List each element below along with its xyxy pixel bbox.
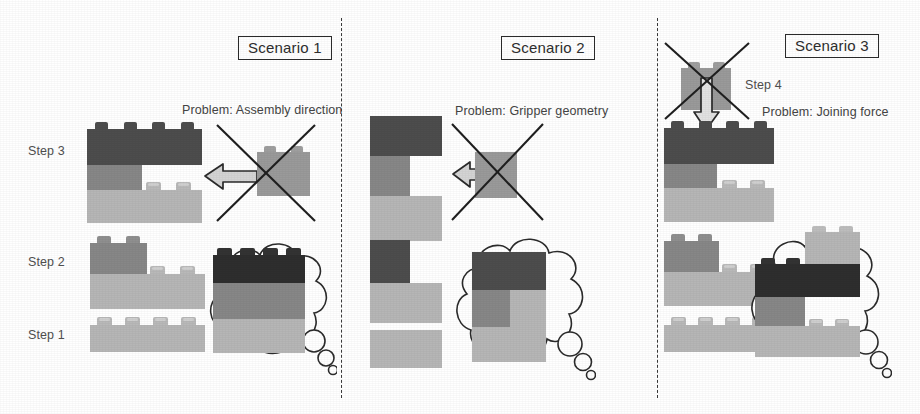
layer-body: [805, 232, 860, 264]
stud: [181, 122, 194, 129]
s1-step1-stud-1: [97, 317, 112, 325]
s3-upper-notch-stud-2: [750, 180, 765, 188]
stud: [97, 236, 111, 243]
s1-step3-notch-stud-2: [176, 182, 191, 190]
s2-base-light-body: [370, 196, 442, 241]
scenario-1-step-2-label: Step 2: [28, 255, 65, 269]
s3-mid-mid-body: [664, 241, 719, 272]
scenario-1-step-3-label: Step 3: [28, 144, 65, 158]
s1-target-assembly: [213, 255, 305, 353]
stud: [152, 122, 165, 129]
divider-2-3: [657, 18, 658, 398]
s1-step2-mid-body: [90, 243, 147, 274]
scenario-2-title: Scenario 2: [511, 39, 585, 56]
stud: [699, 121, 712, 128]
stud: [698, 234, 712, 241]
s2-target-dark-layer: [472, 252, 546, 290]
s2-top-dark-brick: [370, 116, 442, 156]
layer-body: [510, 290, 546, 327]
scenario-1-problem-label: Problem: Assembly direction: [182, 103, 342, 117]
scenario-3-title: Scenario 3: [795, 37, 869, 54]
s1-target-light-layer: [213, 319, 305, 353]
layer-body: [213, 319, 305, 353]
s1-step2-notch-stud-1: [150, 266, 165, 274]
s1-step1-stud-4: [181, 317, 196, 325]
s2-mid-brick: [370, 156, 410, 196]
scenario-2-title-box: Scenario 2: [501, 36, 595, 60]
s2-mid-body: [370, 156, 410, 196]
s1-step2-notch-stud-2: [180, 266, 195, 274]
stud: [263, 248, 278, 255]
stud: [240, 248, 255, 255]
divider-1-2: [341, 18, 342, 398]
s1-step3-notch-stud-1: [146, 182, 161, 190]
s2-target-upper-light-layer: [510, 290, 546, 327]
layer-body: [472, 290, 510, 327]
s2-target-assembly: [472, 252, 546, 362]
layer-body: [213, 255, 305, 283]
s1-step3-light-body: [87, 190, 202, 223]
s3-target-notch-stud-2: [835, 319, 849, 326]
stud: [726, 121, 739, 128]
s1-step2-light-brick: [90, 274, 205, 309]
s1-step1-stud-3: [153, 317, 168, 325]
s1-step3-dark-brick: [87, 129, 202, 165]
s3-upper-dark-brick: [664, 128, 774, 164]
s2-target-light-layer: [472, 327, 546, 362]
s3-bottom-stud-2: [698, 317, 713, 325]
s2-bottom-light-brick: [370, 330, 442, 368]
s1-step2-mid-studs: [90, 236, 147, 243]
s1-target-mid-layer: [213, 283, 305, 319]
s3-target-notch-stud-1: [809, 319, 823, 326]
s3-upper-dark-studs: [664, 121, 774, 128]
s3-mid-studs: [664, 234, 719, 241]
s1-step3-dark-body: [87, 129, 202, 165]
s2-lower-dark-brick: [370, 240, 410, 283]
s3-target-light-base: [755, 326, 860, 357]
s3-upper-light-body: [664, 188, 774, 222]
stud: [671, 121, 684, 128]
s2-lower-dark-body: [370, 240, 410, 283]
s1-step2-mid-brick: [90, 243, 147, 274]
s3-upper-notch-stud-1: [722, 180, 737, 188]
s3-bottom-stud-3: [725, 317, 740, 325]
s3-target-black-brick: [755, 264, 860, 297]
s1-step1-light-body: [90, 325, 205, 352]
s3-mid-notch-stud-1: [722, 264, 737, 272]
scenario-2-problem-label: Problem: Gripper geometry: [455, 104, 608, 118]
s1-rejection-cross-icon: [215, 123, 317, 223]
s3-bottom-stud-1: [671, 317, 686, 325]
s2-lower-light-body: [370, 283, 442, 323]
scenario-1-title: Scenario 1: [248, 39, 322, 56]
scenario-3-title-box: Scenario 3: [785, 34, 879, 58]
s1-step3-light-brick: [87, 190, 202, 223]
s3-rejection-cross-icon: [663, 41, 751, 121]
s1-target-black-layer: [213, 255, 305, 283]
s1-step1-light-brick: [90, 325, 205, 352]
scenario-1-step-1-label: Step 1: [28, 328, 65, 342]
s3-upper-dark-body: [664, 128, 774, 164]
scenario-3-problem-label: Problem: Joining force: [762, 105, 889, 119]
s1-step2-light-body: [90, 274, 205, 309]
assembly-scenarios-figure: Scenario 1 Problem: Assembly direction S…: [0, 0, 920, 414]
layer-body: [472, 252, 546, 290]
layer-body: [755, 326, 860, 357]
layer-body: [213, 283, 305, 319]
s3-upper-light-brick: [664, 188, 774, 222]
s3-mid-mid-brick: [664, 241, 719, 272]
s1-step1-stud-2: [125, 317, 140, 325]
s1-target-studs: [213, 248, 305, 255]
stud: [286, 248, 301, 255]
scenario-1-title-box: Scenario 1: [238, 36, 332, 60]
s3-target-upper-light: [805, 232, 860, 264]
stud: [126, 236, 140, 243]
s2-top-dark-body: [370, 116, 442, 156]
stud: [671, 234, 685, 241]
s2-rejection-cross-icon: [450, 122, 545, 222]
s2-target-mid-layer: [472, 290, 510, 327]
s1-step3-dark-studs: [87, 122, 202, 129]
s2-base-light-brick: [370, 196, 442, 241]
layer-body: [755, 264, 860, 297]
stud: [95, 122, 108, 129]
stud: [754, 121, 767, 128]
